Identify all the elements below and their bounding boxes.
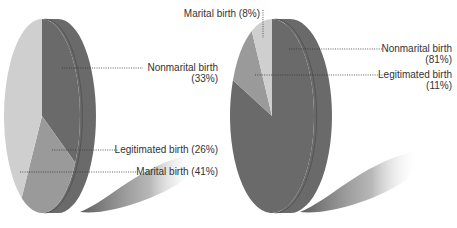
- pie-chart-left: [4, 19, 197, 213]
- label-right-legitimated-2: (11%): [426, 80, 452, 91]
- label-right-nonmarital-1: Nonmarital birth: [381, 43, 452, 54]
- label-left-legitimated: Legitimated birth (26%): [115, 144, 218, 155]
- chart-canvas: Nonmarital birth (33%) Legitimated birth…: [0, 0, 457, 228]
- label-right-marital: Marital birth (8%): [184, 8, 260, 19]
- label-right-nonmarital-2: (81%): [425, 54, 452, 65]
- label-left-marital: Marital birth (41%): [136, 166, 218, 177]
- pie-left-shadow: [80, 155, 197, 212]
- label-left-nonmarital-2: (33%): [191, 73, 218, 84]
- label-right-legitimated-1: Legitimated birth: [378, 69, 452, 80]
- label-left-nonmarital-1: Nonmarital birth: [147, 62, 218, 73]
